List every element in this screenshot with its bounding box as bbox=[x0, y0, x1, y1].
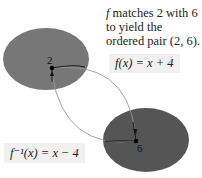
label-6: 6 bbox=[137, 142, 143, 154]
domain-ellipse bbox=[3, 28, 89, 90]
f-inverse-formula: f⁻¹(x) = x − 4 bbox=[4, 143, 85, 163]
caption: f matches 2 with 6 to yield the ordered … bbox=[106, 6, 202, 48]
point-2 bbox=[50, 66, 54, 70]
f-formula: f(x) = x + 4 bbox=[109, 54, 180, 73]
caption-text: matches 2 with 6 to yield the ordered pa… bbox=[106, 6, 200, 48]
range-ellipse bbox=[103, 108, 189, 172]
label-2: 2 bbox=[47, 54, 53, 66]
